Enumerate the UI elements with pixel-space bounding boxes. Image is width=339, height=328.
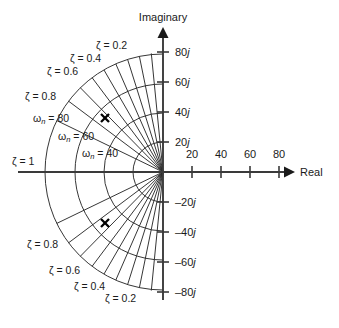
zeta-label-04-upper: ζ = 0.4 <box>70 52 101 64</box>
imag-tick-label-40: 40j <box>175 106 190 118</box>
imag-tick-label-20: 20j <box>175 136 190 148</box>
imaginary-axis-arrow <box>158 27 169 38</box>
zeta-ray-02-lower <box>139 172 163 288</box>
imag-tick-label-neg40: –40j <box>175 226 196 238</box>
imag-tick-label-neg20: –20j <box>175 196 196 208</box>
s-plane-canvas: Imaginary Real 20 40 60 80 80j 60j 40j 2… <box>0 0 339 328</box>
imag-tick-label-80: 80j <box>175 46 190 58</box>
zeta-label-02-lower: ζ = 0.2 <box>105 292 136 304</box>
s-plane-figure: Imaginary Real 20 40 60 80 80j 60j 40j 2… <box>0 0 339 328</box>
zeta-label-08-upper: ζ = 0.8 <box>25 90 56 102</box>
imag-tick-label-neg80: –80j <box>175 286 196 298</box>
zeta-label-08-lower: ζ = 0.8 <box>27 238 58 250</box>
pole-marker-lower[interactable] <box>101 219 109 227</box>
pole-marker-upper[interactable] <box>101 114 109 122</box>
real-tick-label-80: 80 <box>273 148 285 160</box>
real-tick-label-20: 20 <box>186 148 198 160</box>
imag-tick-label-60: 60j <box>175 76 190 88</box>
zeta-ray-02-upper <box>139 56 163 172</box>
omega-n-label-40: ωn = 40 <box>82 147 118 161</box>
real-axis-arrow <box>284 167 295 178</box>
real-tick-label-40: 40 <box>215 148 227 160</box>
real-axis-label: Real <box>300 166 323 178</box>
zeta-label-02-upper: ζ = 0.2 <box>96 39 127 51</box>
imag-tick-label-neg60: –60j <box>175 256 196 268</box>
omega-n-label-60: ωn = 60 <box>58 130 94 144</box>
zeta-label-04-lower: ζ = 0.4 <box>74 280 105 292</box>
zeta-label-1: ζ = 1 <box>12 155 35 167</box>
zeta-label-06-upper: ζ = 0.6 <box>47 65 78 77</box>
real-tick-label-60: 60 <box>244 148 256 160</box>
zeta-label-06-lower: ζ = 0.6 <box>49 264 80 276</box>
imaginary-axis-label: Imaginary <box>139 11 188 23</box>
